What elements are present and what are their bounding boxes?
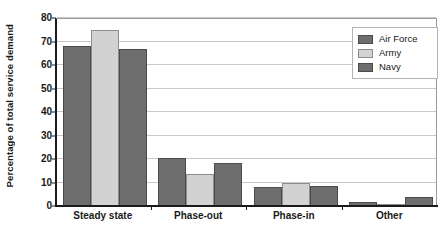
- y-tick-label: 10: [18, 178, 52, 188]
- y-tick-label: 60: [18, 60, 52, 70]
- y-tick-label: 0: [18, 201, 52, 211]
- y-tick-label: 40: [18, 107, 52, 117]
- bar-air-force-phase-out: [158, 158, 186, 206]
- y-axis-ticks: 01020304050607080: [16, 0, 52, 233]
- bar-air-force-phase-in: [254, 187, 282, 206]
- bar-air-force-steady-state: [63, 46, 91, 206]
- y-tick-label: 20: [18, 154, 52, 164]
- legend-swatch-icon: [358, 49, 373, 58]
- chart-legend: Air ForceArmyNavy: [352, 27, 438, 79]
- y-axis-title-text: Percentage of total service demand: [4, 24, 15, 187]
- y-tick-label: 50: [18, 84, 52, 94]
- x-tick-mark: [342, 206, 343, 210]
- bar-chart: Percentage of total service demand 01020…: [0, 0, 444, 233]
- x-category-label: Steady state: [55, 210, 151, 221]
- y-tick-label: 70: [18, 37, 52, 47]
- x-category-label: Phase-out: [151, 210, 247, 221]
- bar-army-steady-state: [91, 30, 119, 206]
- x-category-label: Other: [342, 210, 438, 221]
- legend-item-navy[interactable]: Navy: [358, 60, 432, 74]
- legend-swatch-icon: [358, 63, 373, 72]
- x-tick-mark: [151, 206, 152, 210]
- bar-navy-steady-state: [119, 49, 147, 206]
- legend-swatch-icon: [358, 35, 373, 44]
- legend-label: Army: [379, 48, 401, 58]
- y-tick-label: 30: [18, 131, 52, 141]
- x-tick-mark: [246, 206, 247, 210]
- y-tick-label: 80: [18, 13, 52, 23]
- legend-label: Air Force: [379, 34, 418, 44]
- legend-item-army[interactable]: Army: [358, 46, 432, 60]
- legend-label: Navy: [379, 62, 401, 72]
- bar-army-phase-in: [282, 183, 310, 207]
- gridline: [57, 17, 436, 18]
- legend-item-air-force[interactable]: Air Force: [358, 32, 432, 46]
- bar-army-phase-out: [186, 174, 214, 206]
- bar-navy-phase-in: [310, 186, 338, 206]
- bar-navy-phase-out: [214, 163, 242, 206]
- x-category-label: Phase-in: [246, 210, 342, 221]
